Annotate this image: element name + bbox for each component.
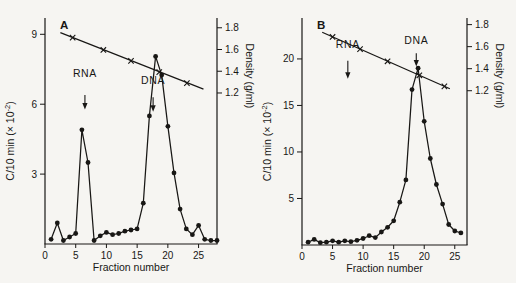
right-axis-tick-label: 1.8 [475, 19, 489, 30]
left-axis-tick-label: 9 [31, 29, 37, 40]
counts-data-point [116, 231, 121, 236]
counts-data-point [385, 225, 390, 230]
counts-data-point [86, 160, 91, 165]
density-line [60, 33, 203, 89]
counts-data-point [428, 156, 433, 161]
right-axis-tick-label: 1.4 [475, 63, 489, 74]
right-axis-tick-label: 1.6 [475, 41, 489, 52]
counts-data-point [49, 237, 54, 242]
figure-density-gradient-panels: RNADNA05101520253691.21.41.61.8AFraction… [0, 0, 516, 283]
counts-data-point [104, 230, 109, 235]
x-axis-tick-label: 20 [419, 251, 431, 262]
counts-data-point [361, 236, 366, 241]
x-axis-tick-label: 25 [193, 250, 205, 261]
counts-data-point [110, 232, 115, 237]
counts-data-point [190, 232, 195, 237]
left-axis-title: C/10 min (× 10-2) [260, 102, 273, 181]
x-axis-title: Fraction number [346, 262, 423, 274]
x-axis-tick-label: 15 [132, 250, 144, 261]
counts-data-point [141, 201, 146, 206]
counts-data-point [422, 119, 427, 124]
dna-arrowhead [414, 60, 419, 67]
panel-letter: B [317, 19, 325, 31]
counts-data-point [416, 66, 421, 71]
counts-data-point [209, 238, 214, 243]
x-axis-tick-label: 25 [449, 251, 461, 262]
right-axis-tick-label: 1.4 [225, 66, 239, 77]
counts-data-point [61, 238, 66, 243]
counts-data-point [342, 238, 347, 243]
counts-data-point [446, 222, 451, 227]
counts-data-point [324, 240, 329, 245]
counts-data-point [459, 231, 464, 236]
counts-data-point [379, 230, 384, 235]
axes-frame [301, 18, 467, 245]
counts-data-point [55, 221, 60, 226]
x-axis-tick-label: 20 [162, 250, 174, 261]
counts-data-point [318, 240, 323, 245]
x-axis-tick-label: 15 [388, 251, 400, 262]
counts-data-point [391, 218, 396, 223]
x-axis-tick-label: 10 [101, 250, 113, 261]
counts-data-point [123, 229, 128, 234]
left-axis-tick-label: 20 [283, 53, 295, 64]
counts-data-point [336, 240, 341, 245]
rna-arrowhead [345, 72, 350, 79]
counts-data-point [306, 240, 311, 245]
rna-arrowhead [82, 103, 87, 110]
counts-data-point [135, 227, 140, 232]
x-axis-tick-label: 5 [73, 250, 79, 261]
panel-a-chart: RNADNA05101520253691.21.41.61.8AFraction… [0, 0, 258, 283]
panel-b-chart: RNADNA051015202551015201.21.41.61.8BFrac… [258, 0, 516, 283]
panel-letter: A [60, 19, 68, 31]
dna-peak-label: DNA [404, 34, 428, 46]
right-axis-title: Density (g/ml) [244, 44, 256, 109]
x-axis-tick-label: 10 [358, 251, 370, 262]
counts-data-point [440, 202, 445, 207]
left-axis-tick-label: 5 [288, 193, 294, 204]
left-axis-tick-label: 15 [283, 100, 295, 111]
x-axis-tick-label: 0 [42, 250, 48, 261]
counts-line [51, 56, 217, 240]
right-axis-tick-label: 1.8 [225, 22, 239, 33]
left-axis-tick-label: 3 [31, 169, 37, 180]
counts-data-point [172, 171, 177, 176]
rna-peak-label: RNA [73, 67, 97, 79]
x-axis-title: Fraction number [93, 261, 170, 273]
counts-data-point [410, 87, 415, 92]
counts-data-point [202, 237, 207, 242]
counts-data-point [166, 124, 171, 129]
right-axis-tick-label: 1.2 [225, 87, 239, 98]
counts-data-point [196, 223, 201, 228]
left-axis-tick-label: 6 [31, 99, 37, 110]
counts-data-point [178, 207, 183, 212]
counts-data-point [373, 235, 378, 240]
counts-data-point [73, 231, 78, 236]
left-axis-title: C/10 min (× 10-2) [3, 101, 16, 180]
x-axis-tick-label: 0 [299, 251, 305, 262]
density-x-marker [330, 34, 335, 39]
counts-data-point [349, 239, 354, 244]
counts-data-point [67, 235, 72, 240]
counts-data-point [312, 237, 317, 242]
counts-data-point [147, 114, 152, 119]
counts-data-point [80, 127, 85, 132]
axes-frame [44, 18, 217, 244]
counts-data-point [153, 54, 158, 59]
counts-data-point [397, 200, 402, 205]
counts-data-point [355, 238, 360, 243]
counts-data-point [184, 227, 189, 232]
counts-data-point [434, 182, 439, 187]
right-axis-tick-label: 1.2 [475, 85, 489, 96]
counts-data-point [98, 233, 103, 238]
density-x-marker [385, 59, 390, 64]
counts-data-point [129, 228, 134, 233]
right-axis-title: Density (g/ml) [494, 44, 506, 109]
dna-peak-label: DNA [141, 74, 165, 86]
counts-data-point [330, 238, 335, 243]
dna-arrowhead [151, 105, 156, 112]
left-axis-tick-label: 10 [283, 146, 295, 157]
counts-data-point [92, 238, 97, 243]
right-axis-tick-label: 1.6 [225, 44, 239, 55]
counts-data-point [404, 178, 409, 183]
